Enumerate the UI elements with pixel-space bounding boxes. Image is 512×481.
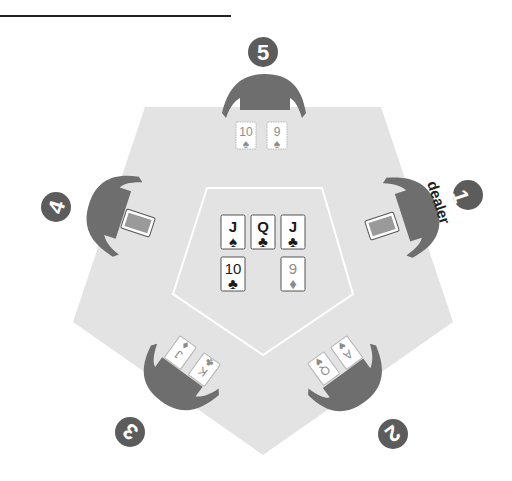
spade-icon: ♠: [274, 137, 281, 151]
club-icon: ♣: [258, 233, 268, 250]
player-5-card-1: 10 ♠: [236, 122, 256, 151]
club-icon: ♣: [288, 233, 298, 250]
poker-table-diagram: 5 10 ♠ 9 ♠ dealer 1 4: [0, 0, 512, 481]
player-5-card-2: 9 ♠: [267, 122, 287, 151]
seat-number-5: 5: [257, 40, 269, 65]
board-card-5: 9 ♦: [281, 257, 305, 292]
diamond-icon: ♦: [289, 275, 297, 292]
board-card-4: 10 ♣: [221, 257, 245, 292]
club-icon: ♣: [228, 275, 238, 292]
board-card-1: J ♠: [221, 215, 245, 250]
spade-icon: ♠: [243, 137, 250, 151]
table-surface: [73, 107, 453, 455]
spade-icon: ♠: [229, 233, 237, 250]
board-card-3: J ♣: [281, 215, 305, 250]
board-card-2: Q ♣: [251, 215, 275, 250]
